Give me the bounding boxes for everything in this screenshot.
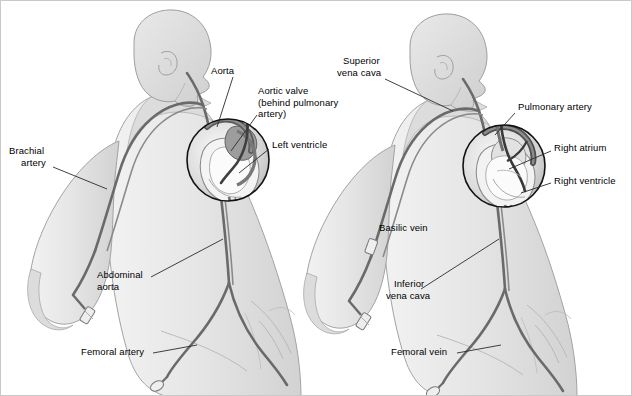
label-abdominal-aorta-line1: Abdominal <box>97 269 143 280</box>
label-superior-vena-cava: Superiorvena cava <box>337 55 381 78</box>
label-femoral-vein: Femoral vein <box>391 346 447 358</box>
label-superior-vena-cava-line2: vena cava <box>337 67 381 78</box>
label-pulmonary-artery: Pulmonary artery <box>518 101 592 113</box>
label-inferior-vena-cava-line2: vena cava <box>386 290 430 301</box>
label-brachial-artery-line2: artery <box>9 157 46 169</box>
label-brachial-artery-line1: Brachial <box>9 145 44 156</box>
label-abdominal-aorta: Abdominalaorta <box>97 269 143 292</box>
label-aortic-valve-line1: Aortic valve <box>258 85 308 96</box>
label-abdominal-aorta-line2: aorta <box>97 281 119 292</box>
label-superior-vena-cava-line1: Superior <box>337 55 380 67</box>
label-aortic-valve: Aortic valve(behind pulmonaryartery) <box>258 85 338 120</box>
left-figure-body <box>28 10 301 396</box>
label-aorta: Aorta <box>211 65 234 77</box>
label-femoral-artery: Femoral artery <box>81 346 144 358</box>
label-aortic-valve-line2: (behind pulmonary <box>258 97 338 108</box>
label-inferior-vena-cava-line1: Inferior <box>386 278 424 290</box>
label-brachial-artery: Brachialartery <box>9 145 46 168</box>
label-right-atrium: Right atrium <box>554 142 606 154</box>
label-basilic-vein: Basilic vein <box>379 222 428 234</box>
illustration-canvas: Aorta Aortic valve(behind pulmonaryarter… <box>0 0 632 396</box>
label-aortic-valve-line3: artery) <box>258 108 286 119</box>
label-inferior-vena-cava: Inferiorvena cava <box>386 278 430 301</box>
label-right-ventricle: Right ventricle <box>554 175 616 187</box>
anatomy-illustration <box>1 1 632 396</box>
label-left-ventricle: Left ventricle <box>272 139 327 151</box>
